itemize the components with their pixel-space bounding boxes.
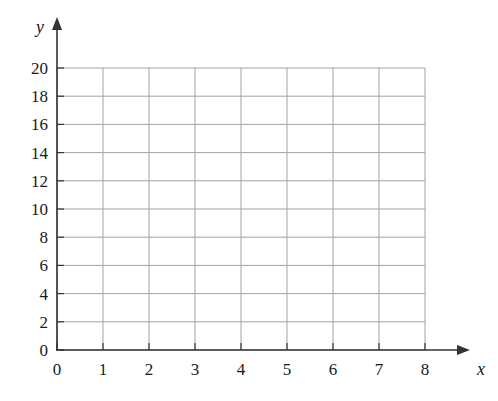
y-tick-label: 0 — [40, 342, 49, 359]
y-tick-label: 18 — [31, 88, 48, 105]
x-tick-label: 8 — [421, 361, 430, 378]
y-tick-label: 6 — [40, 257, 49, 274]
y-tick-label: 2 — [40, 313, 49, 330]
y-tick-label: 10 — [31, 201, 48, 218]
x-axis-label: x — [477, 360, 485, 378]
y-tick-label: 20 — [31, 60, 48, 77]
x-tick-label: 4 — [237, 361, 246, 378]
x-tick-label: 7 — [375, 361, 384, 378]
y-tick-label: 14 — [31, 144, 48, 161]
x-tick-label: 3 — [191, 361, 200, 378]
y-tick-label: 8 — [40, 229, 49, 246]
x-tick-label: 2 — [145, 361, 154, 378]
chart-canvas — [0, 0, 498, 401]
y-tick-label: 4 — [40, 285, 49, 302]
x-tick-label: 6 — [329, 361, 338, 378]
coordinate-grid-chart: 02468101214161820 012345678 y x — [0, 0, 498, 401]
y-tick-label: 12 — [31, 172, 48, 189]
y-tick-label: 16 — [31, 116, 48, 133]
x-tick-label: 5 — [283, 361, 292, 378]
x-tick-label: 1 — [99, 361, 108, 378]
chart-background — [0, 0, 498, 401]
y-axis-label: y — [36, 18, 44, 36]
x-tick-label: 0 — [53, 361, 62, 378]
